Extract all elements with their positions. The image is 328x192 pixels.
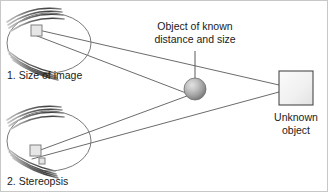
sight-lines-group xyxy=(32,29,279,159)
unknown-object-square xyxy=(279,71,313,105)
eye-1-retinal-image-square xyxy=(31,25,42,36)
unknown-object-label-line2: object xyxy=(282,124,310,136)
known-object-group xyxy=(184,51,206,100)
diagram-canvas: 1. Size of image 2. Stereopsis Object of… xyxy=(1,1,328,192)
known-object-label-line1: Object of known xyxy=(157,20,232,32)
ray-eye2-to-known-object xyxy=(35,96,187,152)
unknown-object-group xyxy=(279,71,313,105)
known-object-label-line2: distance and size xyxy=(154,33,235,45)
unknown-object-label-line1: Unknown xyxy=(274,111,318,123)
known-object-sphere xyxy=(184,78,206,100)
eye-2-group xyxy=(7,106,91,178)
eye-1-label: 1. Size of image xyxy=(7,69,82,81)
eye-2-retinal-image-square-lower xyxy=(39,158,45,164)
eye-2-upper-lashes-icon xyxy=(7,106,64,129)
vision-depth-cues-figure: 1. Size of image 2. Stereopsis Object of… xyxy=(0,0,328,192)
eye-2-retinal-image-square-upper xyxy=(30,145,41,156)
ray-eye2-to-unknown-object xyxy=(32,92,279,159)
eye-2-label: 2. Stereopsis xyxy=(7,175,68,187)
